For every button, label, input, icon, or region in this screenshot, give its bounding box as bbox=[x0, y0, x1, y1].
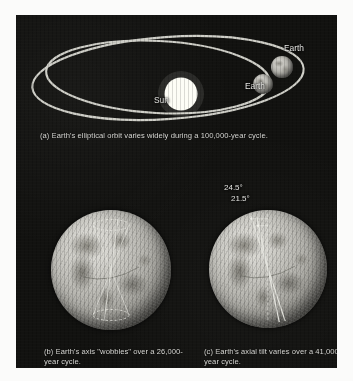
figure-dark-plate: Sun Earth Earth (a) Earth's elliptical o… bbox=[16, 15, 337, 368]
panel-c-caption: (c) Earth's axial tilt varies over a 41,… bbox=[204, 347, 337, 368]
angle-label-max: 24.5° bbox=[224, 183, 243, 192]
angle-label-min: 21.5° bbox=[231, 194, 250, 203]
precession-overlay bbox=[51, 210, 171, 330]
panel-a-caption: (a) Earth's elliptical orbit varies wide… bbox=[40, 131, 318, 141]
orbit-ellipse-inner bbox=[44, 35, 271, 119]
figure-container: Sun Earth Earth (a) Earth's elliptical o… bbox=[0, 0, 353, 381]
arrowhead-inner bbox=[256, 224, 259, 227]
earth-label-near: Earth bbox=[245, 81, 265, 91]
wobble-ellipse-bottom bbox=[93, 310, 129, 321]
earth-sphere-far bbox=[271, 56, 293, 78]
sun-body bbox=[165, 78, 198, 111]
panel-a-eccentricity: Sun Earth Earth bbox=[16, 15, 337, 140]
panel-b-globe bbox=[51, 210, 171, 330]
obliquity-overlay bbox=[209, 210, 327, 328]
panel-c-globe bbox=[209, 210, 327, 328]
orbit-diagram bbox=[16, 15, 337, 140]
wobble-ellipse-top bbox=[93, 220, 129, 231]
cone-line-bottom-right bbox=[111, 270, 129, 315]
sun-label: Sun bbox=[154, 95, 169, 105]
cone-line-top-left bbox=[93, 225, 111, 270]
earth-label-far: Earth bbox=[284, 43, 304, 53]
panel-b-caption: (b) Earth's axis "wobbles" over a 26,000… bbox=[44, 347, 184, 368]
